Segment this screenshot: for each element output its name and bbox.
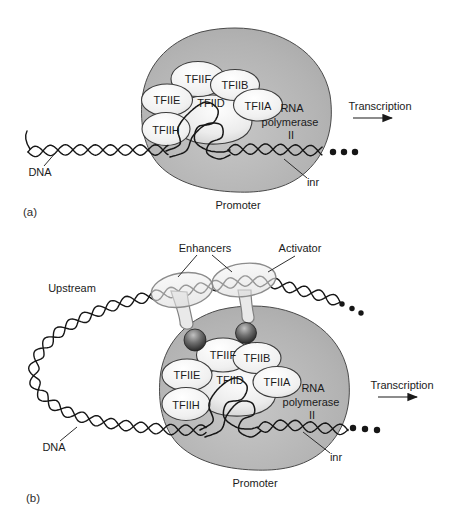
dna-pointer-b bbox=[60, 427, 77, 441]
diagram-canvas: TFIIF TFIIB TFIIE TFIID TFIIA TFIIH RNA … bbox=[0, 0, 453, 523]
tfiih-label-a: TFIIH bbox=[152, 124, 180, 136]
rna-line: RNA bbox=[301, 382, 325, 394]
dot bbox=[374, 427, 380, 433]
dot bbox=[330, 149, 336, 155]
transcription-label-b: Transcription bbox=[370, 379, 433, 391]
figure: TFIIF TFIIB TFIIE TFIID TFIIA TFIIH RNA … bbox=[0, 0, 453, 523]
tfiid-label-b: TFIID bbox=[216, 374, 244, 386]
upstream-label: Upstream bbox=[48, 282, 96, 294]
activator-pointer bbox=[268, 256, 295, 272]
dot bbox=[358, 310, 363, 315]
panel-tag-a: (a) bbox=[23, 206, 37, 218]
panel-tag-b: (b) bbox=[26, 492, 40, 504]
dna-label-b: DNA bbox=[42, 441, 66, 453]
dot bbox=[350, 425, 356, 431]
inr-label-b: inr bbox=[330, 451, 343, 463]
dot bbox=[352, 149, 358, 155]
dot bbox=[362, 426, 368, 432]
ii-line: II bbox=[288, 129, 294, 141]
tfiie-label-a: TFIIE bbox=[154, 94, 181, 106]
dna-continuation-dots-b-top bbox=[339, 301, 363, 315]
tfiid-label-a: TFIID bbox=[197, 97, 225, 109]
activator-label: Activator bbox=[279, 242, 322, 254]
inr-label-a: inr bbox=[307, 176, 320, 188]
tfiib-label-a: TFIIB bbox=[222, 79, 249, 91]
tfiih-label-b: TFIIH bbox=[172, 399, 200, 411]
tfiie-label-b: TFIIE bbox=[174, 369, 201, 381]
dot bbox=[349, 306, 354, 311]
ii-line: II bbox=[309, 409, 315, 421]
dna-label-a: DNA bbox=[28, 166, 52, 178]
enhancer-activator-cap-right bbox=[210, 260, 278, 301]
coactivator-ball-left bbox=[184, 329, 206, 351]
dot bbox=[339, 301, 344, 306]
dna-continuation-dots-a bbox=[330, 149, 358, 155]
enhancer-activator-cap-left bbox=[149, 268, 216, 311]
enhancers-label: Enhancers bbox=[179, 242, 232, 254]
polymerase-line: polymerase bbox=[283, 396, 340, 408]
dot bbox=[341, 149, 347, 155]
panel-a: TFIIF TFIIB TFIIE TFIID TFIIA TFIIH RNA … bbox=[23, 28, 412, 218]
promoter-label-a: Promoter bbox=[215, 199, 261, 211]
tfiia-label-a: TFIIA bbox=[245, 100, 273, 112]
tfiif-label-b: TFIIF bbox=[210, 349, 237, 361]
polymerase-line: polymerase bbox=[262, 116, 319, 128]
coactivator-ball-right bbox=[236, 323, 257, 344]
promoter-label-b: Promoter bbox=[232, 477, 278, 489]
tfiif-label-a: TFIIF bbox=[185, 73, 212, 85]
tfiia-label-b: TFIIA bbox=[264, 376, 292, 388]
rna-line: RNA bbox=[280, 102, 304, 114]
dna-frayed-end-a bbox=[26, 131, 30, 149]
dna-continuation-dots-b-bottom bbox=[350, 425, 380, 433]
transcription-label-a: Transcription bbox=[348, 100, 411, 112]
panel-b: Enhancers Activator Upstream TFIIF TFIIB… bbox=[26, 242, 434, 504]
tfiib-label-b: TFIIB bbox=[244, 352, 271, 364]
